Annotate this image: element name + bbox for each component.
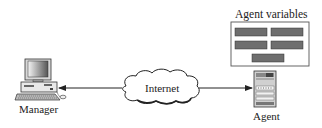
internet-label: Internet <box>145 83 179 94</box>
agent-variable-4 <box>271 41 303 49</box>
agent-variable-3 <box>235 41 267 49</box>
agent-label: Agent <box>253 111 280 122</box>
agent-variable-2 <box>271 28 303 36</box>
agent-variables-label: Agent variables <box>235 9 308 21</box>
desktop-computer-icon <box>15 59 66 100</box>
manager-label: Manager <box>19 104 58 115</box>
agent-variables-box <box>231 22 309 66</box>
agent-variable-1 <box>235 28 267 36</box>
agent-variable-5 <box>252 54 284 62</box>
server-icon <box>254 71 276 107</box>
